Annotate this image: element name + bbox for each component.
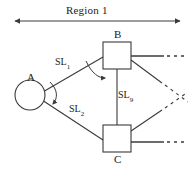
link-label-sl2: SL2	[69, 104, 84, 117]
link-label-sl1-subscript: 1	[67, 63, 71, 71]
link-label-sl2-text: SL	[69, 103, 81, 114]
continuation-c-diagonal-solid	[131, 110, 162, 131]
link-label-sl1-text: SL	[55, 56, 67, 67]
node-label-b: B	[114, 29, 121, 40]
diagram-canvas: Region 1 A B C SL1 SL2 SL9	[0, 0, 188, 174]
continuation-c-diagonal-dashed	[165, 92, 188, 108]
curved-arrow-b-right	[86, 61, 105, 78]
diagram-vector-layer	[0, 0, 188, 174]
link-label-sl9: SL9	[118, 90, 133, 103]
node-c-rect	[103, 125, 131, 152]
link-label-sl1: SL1	[55, 57, 70, 70]
node-label-a: A	[27, 72, 35, 83]
curved-arrow-a-down	[50, 82, 56, 104]
node-b-rect	[103, 42, 131, 69]
node-label-c: C	[114, 154, 121, 165]
link-label-sl9-text: SL	[118, 89, 130, 100]
node-a-circle	[15, 80, 45, 110]
region-label: Region 1	[66, 5, 108, 16]
link-label-sl2-subscript: 2	[81, 110, 85, 118]
link-label-sl9-subscript: 9	[130, 96, 134, 104]
continuation-b-diagonal-solid	[131, 60, 162, 83]
